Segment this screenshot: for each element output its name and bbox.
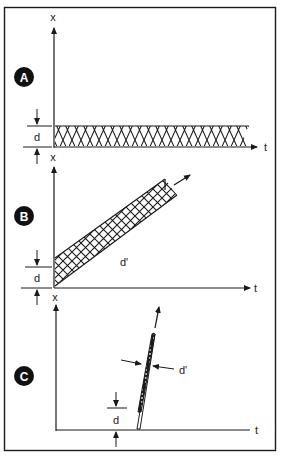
panel-b-band-label: d': [120, 256, 128, 268]
svg-text:B: B: [20, 210, 29, 224]
diagram-figure: A x t d B x t: [0, 0, 281, 458]
panel-c-dimension-d: d: [107, 392, 127, 447]
panel-b: B x t d' d: [14, 151, 257, 305]
panel-c-motion-arrow: [155, 307, 159, 328]
panel-c-dimension-d-prime: d': [121, 360, 187, 376]
panel-b-dimension-d: d: [21, 250, 52, 305]
panel-b-x-axis-label: x: [50, 151, 56, 163]
panel-b-band: [55, 179, 177, 286]
svg-text:C: C: [20, 370, 29, 384]
panel-c: C x t d' d: [14, 291, 258, 447]
badge-a: A: [14, 67, 34, 87]
panel-a-t-axis-label: t: [264, 141, 267, 153]
svg-text:d: d: [34, 131, 40, 143]
svg-text:d: d: [34, 272, 40, 284]
panel-a: A x t d: [14, 11, 267, 164]
panel-a-band: [55, 126, 249, 146]
svg-text:A: A: [20, 71, 29, 85]
badge-c: C: [14, 366, 34, 386]
panel-a-dimension-d: d: [23, 109, 52, 164]
panel-a-x-axis-label: x: [50, 11, 56, 23]
badge-b: B: [14, 206, 34, 226]
panel-b-motion-arrow: [174, 175, 190, 185]
panel-b-t-axis-label: t: [254, 282, 257, 294]
figure-frame: [5, 8, 276, 451]
svg-text:d': d': [179, 364, 187, 376]
svg-text:d: d: [113, 414, 119, 426]
panel-c-t-axis-label: t: [255, 424, 258, 436]
panel-c-x-axis-label: x: [52, 291, 58, 303]
panel-c-band: [137, 333, 155, 429]
